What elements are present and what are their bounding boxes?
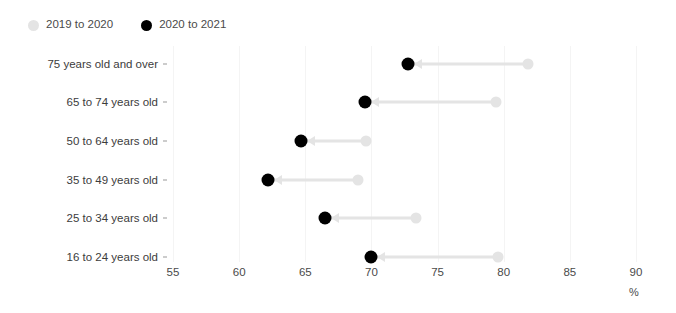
y-axis-category-label: 50 to 64 years old xyxy=(67,135,158,147)
dumbbell-chart: 2019 to 2020 2020 to 2021 75 years old a… xyxy=(0,0,676,313)
x-axis-unit-label: % xyxy=(629,286,639,298)
data-point-2020-to-2021[interactable] xyxy=(295,135,308,148)
data-point-2020-to-2021[interactable] xyxy=(365,251,378,264)
data-point-2020-to-2021[interactable] xyxy=(262,174,275,187)
x-gridline xyxy=(305,46,306,262)
arrowhead-icon xyxy=(414,59,422,69)
y-axis-category-label: 65 to 74 years old xyxy=(67,96,158,108)
y-axis-tick-mark xyxy=(163,257,167,258)
y-axis-category-label: 75 years old and over xyxy=(47,58,158,70)
x-axis-tick-label: 65 xyxy=(299,266,312,278)
x-axis-tick-label: 75 xyxy=(431,266,444,278)
x-axis-tick-label: 85 xyxy=(563,266,576,278)
arrowhead-icon xyxy=(377,252,385,262)
y-axis-tick-mark xyxy=(163,180,167,181)
x-gridline xyxy=(570,46,571,262)
data-point-2020-to-2021[interactable] xyxy=(358,96,371,109)
y-axis-tick-mark xyxy=(163,218,167,219)
x-gridline xyxy=(438,46,439,262)
arrowhead-icon xyxy=(307,136,315,146)
data-point-2019-to-2020[interactable] xyxy=(493,252,504,263)
x-gridline xyxy=(239,46,240,262)
x-axis-tick-label: 90 xyxy=(630,266,643,278)
x-axis-tick-label: 60 xyxy=(233,266,246,278)
y-axis-category-label: 35 to 49 years old xyxy=(67,174,158,186)
y-axis-labels: 75 years old and over65 to 74 years old5… xyxy=(0,0,168,313)
data-point-2020-to-2021[interactable] xyxy=(402,58,415,71)
x-axis-tick-label: 55 xyxy=(167,266,180,278)
y-axis-category-label: 25 to 34 years old xyxy=(67,212,158,224)
y-axis-tick-mark xyxy=(163,64,167,65)
x-gridline xyxy=(371,46,372,262)
change-connector-line xyxy=(408,63,527,66)
change-connector-line xyxy=(371,256,498,259)
change-connector-line xyxy=(365,101,496,104)
data-point-2019-to-2020[interactable] xyxy=(411,213,422,224)
plot-area: 75 years old and over65 to 74 years old5… xyxy=(0,0,676,313)
y-axis-tick-mark xyxy=(163,102,167,103)
data-point-2019-to-2020[interactable] xyxy=(490,97,501,108)
y-axis-tick-mark xyxy=(163,141,167,142)
x-gridline xyxy=(636,46,637,262)
arrowhead-icon xyxy=(274,175,282,185)
data-point-2019-to-2020[interactable] xyxy=(522,59,533,70)
x-axis-tick-label: 70 xyxy=(365,266,378,278)
y-axis-category-label: 16 to 24 years old xyxy=(67,251,158,263)
data-point-2019-to-2020[interactable] xyxy=(353,175,364,186)
data-point-2020-to-2021[interactable] xyxy=(319,212,332,225)
x-gridline xyxy=(504,46,505,262)
x-axis-tick-label: 80 xyxy=(497,266,510,278)
data-point-2019-to-2020[interactable] xyxy=(361,136,372,147)
arrowhead-icon xyxy=(371,97,379,107)
arrowhead-icon xyxy=(331,213,339,223)
x-gridline xyxy=(173,46,174,262)
